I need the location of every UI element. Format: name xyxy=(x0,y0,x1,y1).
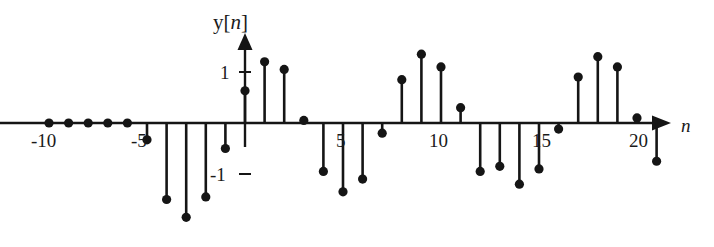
stem-marker xyxy=(221,144,230,153)
stem-marker xyxy=(632,113,641,122)
stem-marker xyxy=(613,62,622,71)
stem-marker xyxy=(44,118,53,127)
x-axis-title: n xyxy=(681,116,691,135)
stem-marker xyxy=(182,213,191,222)
stem-marker xyxy=(260,57,269,66)
stem-marker xyxy=(534,164,543,173)
stem-marker xyxy=(495,162,504,171)
stem-marker xyxy=(554,125,563,134)
x-tick-label-5: 5 xyxy=(336,131,346,150)
x-tick-label-minus-5: -5 xyxy=(131,131,147,150)
y-axis-title: y[n] xyxy=(213,12,248,33)
stem-marker xyxy=(299,116,308,125)
stem-marker xyxy=(378,129,387,138)
stem-marker xyxy=(476,167,485,176)
stem-marker xyxy=(593,52,602,61)
y-tick-label-negative-one: -1 xyxy=(210,165,226,184)
y-axis-title-suffix: ] xyxy=(241,10,248,34)
x-tick-label-10: 10 xyxy=(429,131,448,150)
x-tick-label-minus-10: -10 xyxy=(31,131,56,150)
y-axis-arrowhead xyxy=(238,33,253,50)
x-axis-arrowhead xyxy=(652,116,671,131)
stem-marker xyxy=(397,75,406,84)
stem-marker xyxy=(64,118,73,127)
y-tick-label-one: 1 xyxy=(220,63,230,82)
stem-marker xyxy=(574,73,583,82)
stem-plot-canvas xyxy=(0,0,714,247)
stem-marker xyxy=(201,192,210,201)
stem-marker xyxy=(515,180,524,189)
stem-marker xyxy=(417,50,426,59)
stem-marker xyxy=(123,118,132,127)
stem-marker xyxy=(162,195,171,204)
stem-plot-figure: y[n] n 1 -1 -10 -5 5 10 15 20 xyxy=(0,0,714,247)
stem-marker xyxy=(280,65,289,74)
stem-marker xyxy=(652,157,661,166)
y-axis-title-variable: n xyxy=(231,10,242,34)
stem-marker xyxy=(436,62,445,71)
axes-group xyxy=(0,33,671,174)
x-tick-label-15: 15 xyxy=(532,131,551,150)
stem-marker xyxy=(84,118,93,127)
x-tick-label-20: 20 xyxy=(629,131,648,150)
stem-marker xyxy=(338,187,347,196)
y-axis-title-prefix: y[ xyxy=(213,10,231,34)
stem-marker xyxy=(358,175,367,184)
stem-marker xyxy=(103,118,112,127)
stem-marker xyxy=(240,86,249,95)
stem-marker xyxy=(319,167,328,176)
stem-marker xyxy=(456,103,465,112)
